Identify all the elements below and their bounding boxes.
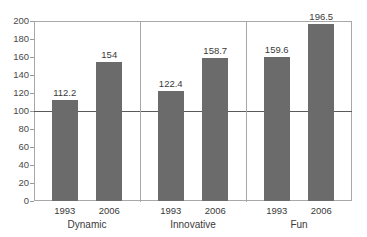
y-tick-mark: [30, 93, 34, 94]
y-tick-label: 140: [13, 70, 29, 80]
y-tick-mark: [30, 39, 34, 40]
x-tick-label: 1993: [54, 205, 75, 216]
y-tick-label: 100: [13, 106, 29, 116]
y-tick-label: 160: [13, 52, 29, 62]
bar-value-label: 158.7: [203, 46, 227, 56]
y-tick-mark: [30, 129, 34, 130]
y-tick-mark: [30, 147, 34, 148]
y-tick-mark: [30, 21, 34, 22]
bar: [158, 91, 184, 201]
y-tick-label: 120: [13, 88, 29, 98]
y-axis: 020406080100120140160180200: [0, 0, 33, 237]
major-gridline-100: [34, 111, 352, 112]
y-tick-mark: [30, 201, 34, 202]
bar: [52, 100, 78, 201]
y-tick-mark: [30, 183, 34, 184]
x-tick-label: 1993: [160, 205, 181, 216]
y-tick-label: 180: [13, 34, 29, 44]
bar-value-label: 122.4: [159, 79, 183, 89]
y-tick-mark: [30, 165, 34, 166]
bar: [308, 24, 334, 201]
x-tick-label: 2006: [205, 205, 226, 216]
y-tick-label: 80: [18, 124, 29, 134]
bar: [96, 62, 122, 201]
y-tick-label: 40: [18, 160, 29, 170]
y-tick-label: 0: [24, 196, 29, 206]
bar-value-label: 159.6: [265, 45, 289, 55]
x-tick-label: 2006: [99, 205, 120, 216]
y-tick-label: 200: [13, 16, 29, 26]
y-tick-mark: [30, 75, 34, 76]
y-tick-mark: [30, 57, 34, 58]
bar-value-label: 112.2: [53, 88, 76, 98]
x-tick-label: 1993: [266, 205, 287, 216]
group-label: Innovative: [170, 219, 216, 231]
bar: [264, 57, 290, 201]
bar-chart: 020406080100120140160180200 112.21993154…: [0, 0, 367, 237]
group-separator: [140, 21, 141, 202]
x-tick-label: 2006: [311, 205, 332, 216]
y-tick-label: 20: [18, 178, 29, 188]
group-label: Fun: [290, 219, 307, 231]
group-label: Dynamic: [68, 219, 107, 231]
bar: [202, 58, 228, 201]
group-separator: [246, 21, 247, 202]
y-tick-label: 60: [18, 142, 29, 152]
bar-value-label: 196.5: [309, 12, 333, 22]
bar-value-label: 154: [101, 50, 117, 60]
